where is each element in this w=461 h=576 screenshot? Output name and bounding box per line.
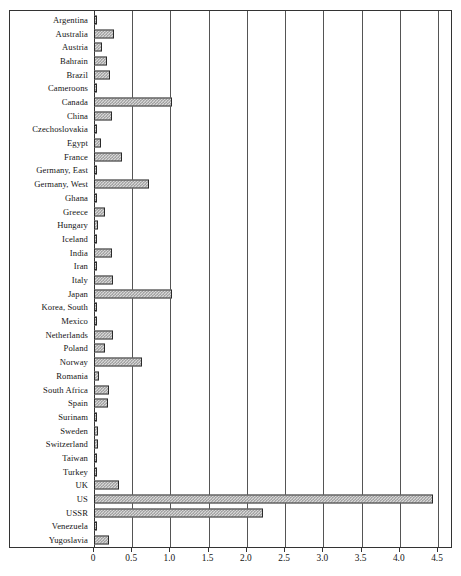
bar-row: Romania xyxy=(10,369,451,383)
bar-row: Iran xyxy=(10,259,451,273)
bar xyxy=(94,426,98,435)
bar xyxy=(94,317,97,326)
bar xyxy=(94,207,105,216)
category-label: Argentina xyxy=(12,15,88,24)
category-label: Korea, South xyxy=(12,303,88,312)
bar xyxy=(94,399,108,408)
bar xyxy=(94,234,97,243)
bar xyxy=(94,412,97,421)
bar-chart: ArgentinaAustraliaAustriaBahrainBrazilCa… xyxy=(0,0,461,576)
bar-row: USSR xyxy=(10,506,451,520)
category-label: Norway xyxy=(12,358,88,367)
category-label: US xyxy=(12,495,88,504)
category-label: Brazil xyxy=(12,70,88,79)
bar-row: Brazil xyxy=(10,68,451,82)
bar-row: Italy xyxy=(10,273,451,287)
bar-row: Hungary xyxy=(10,218,451,232)
category-label: Sweden xyxy=(12,426,88,435)
category-label: Surinam xyxy=(12,412,88,421)
x-tick xyxy=(208,548,209,552)
bar-row: Egypt xyxy=(10,136,451,150)
category-label: Canada xyxy=(12,97,88,106)
bar xyxy=(94,56,107,65)
bar xyxy=(94,15,97,24)
bar xyxy=(94,522,97,531)
category-label: France xyxy=(12,152,88,161)
bar-row: Australia xyxy=(10,27,451,41)
bar-row: India xyxy=(10,246,451,260)
bar xyxy=(94,193,97,202)
category-label: Australia xyxy=(12,29,88,38)
bar-row: Bahrain xyxy=(10,54,451,68)
bar-row: US xyxy=(10,492,451,506)
bar-row: Mexico xyxy=(10,314,451,328)
category-label: Poland xyxy=(12,344,88,353)
category-label: Austria xyxy=(12,43,88,52)
x-tick xyxy=(284,548,285,552)
category-label: Egypt xyxy=(12,139,88,148)
bar xyxy=(94,29,114,38)
bar xyxy=(94,385,109,394)
bar-row: Japan xyxy=(10,287,451,301)
bar xyxy=(94,453,97,462)
category-label: Czechoslovakia xyxy=(12,125,88,134)
x-tick xyxy=(131,548,132,552)
x-tick xyxy=(246,548,247,552)
bar-row: UK xyxy=(10,479,451,493)
bar xyxy=(94,70,110,79)
bar-row: France xyxy=(10,150,451,164)
bar-row: Taiwan xyxy=(10,451,451,465)
bar xyxy=(94,467,97,476)
bar-row: South Africa xyxy=(10,383,451,397)
bar xyxy=(94,440,98,449)
bar xyxy=(94,125,97,134)
bar xyxy=(94,330,113,339)
bar-row: Argentina xyxy=(10,13,451,27)
bar-row: Sweden xyxy=(10,424,451,438)
category-label: Hungary xyxy=(12,221,88,230)
bar-row: Yugoslavia xyxy=(10,533,451,547)
x-tick xyxy=(361,548,362,552)
x-tick xyxy=(93,548,94,552)
category-label: Bahrain xyxy=(12,56,88,65)
bar-row: Surinam xyxy=(10,410,451,424)
bar-rows: ArgentinaAustraliaAustriaBahrainBrazilCa… xyxy=(10,11,451,547)
category-label: Netherlands xyxy=(12,330,88,339)
category-label: China xyxy=(12,111,88,120)
x-tick-label: 0.5 xyxy=(125,553,137,563)
category-label: USSR xyxy=(12,508,88,517)
bar xyxy=(94,289,172,298)
bar-row: Netherlands xyxy=(10,328,451,342)
category-label: Germany, West xyxy=(12,180,88,189)
bar xyxy=(94,536,109,545)
category-label: Italy xyxy=(12,275,88,284)
x-tick-label: 2.0 xyxy=(240,553,252,563)
x-tick-label: 4.0 xyxy=(393,553,405,563)
bar xyxy=(94,139,101,148)
category-label: Turkey xyxy=(12,467,88,476)
bar-row: Venezuela xyxy=(10,520,451,534)
x-tick-label: 4.5 xyxy=(431,553,443,563)
bar-row: Czechoslovakia xyxy=(10,123,451,137)
category-label: Yugoslavia xyxy=(12,536,88,545)
category-label: Romania xyxy=(12,371,88,380)
x-tick-label: 1.0 xyxy=(164,553,176,563)
category-label: Switzerland xyxy=(12,440,88,449)
category-label: South Africa xyxy=(12,385,88,394)
x-tick xyxy=(399,548,400,552)
bar-row: Turkey xyxy=(10,465,451,479)
category-label: Germany, East xyxy=(12,166,88,175)
x-tick-label: 1.5 xyxy=(202,553,214,563)
bar xyxy=(94,371,99,380)
bar xyxy=(94,495,433,504)
bar xyxy=(94,180,149,189)
x-tick xyxy=(169,548,170,552)
x-tick-label: 0 xyxy=(91,553,96,563)
bar-row: Switzerland xyxy=(10,437,451,451)
bar-row: Germany, West xyxy=(10,177,451,191)
x-tick-label: 2.5 xyxy=(278,553,290,563)
bar xyxy=(94,43,102,52)
bar xyxy=(94,275,113,284)
x-tick-label: 3.5 xyxy=(355,553,367,563)
bar xyxy=(94,481,119,490)
